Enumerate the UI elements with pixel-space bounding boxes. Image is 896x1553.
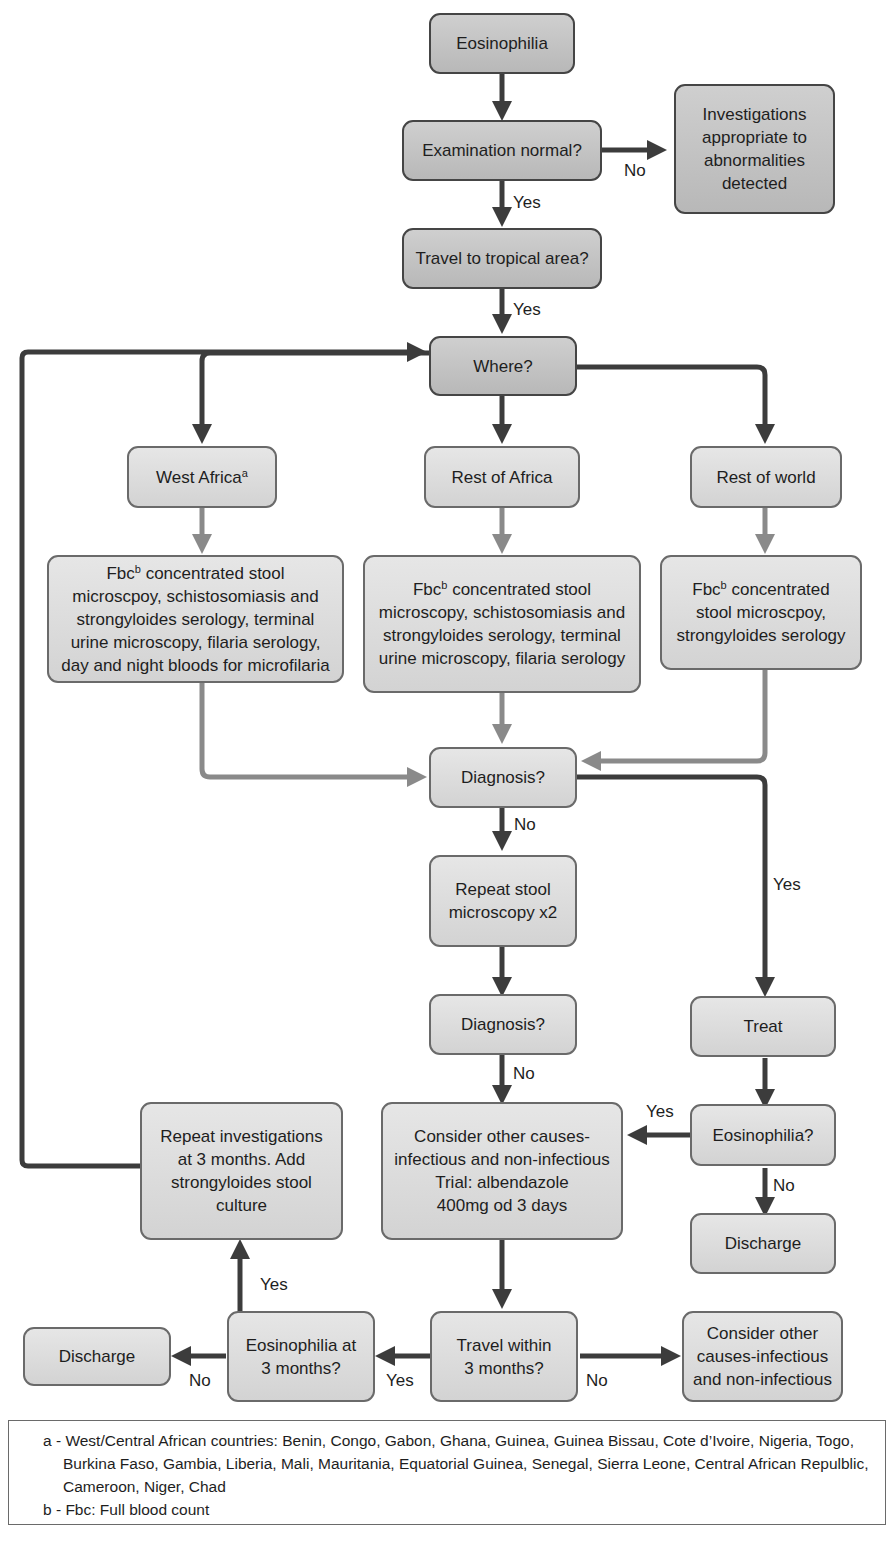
node-diagnosis-1: Diagnosis?	[429, 747, 577, 808]
fbc-label: Fbc	[106, 564, 134, 583]
edge-label-eos-yes: Yes	[646, 1102, 674, 1122]
node-text: Fbcb concentrated stool microscopy, schi…	[379, 578, 625, 670]
tests-text: concentrated stool microscpoy, schistoso…	[61, 564, 329, 675]
node-text: Fbcb concentrated stool microscpoy, schi…	[61, 562, 329, 677]
edge-label-diag1-yes: Yes	[773, 875, 801, 895]
edge-label-eos3m-no: No	[189, 1371, 211, 1391]
node-text: Where?	[473, 355, 533, 378]
edge-label-eos3m-yes: Yes	[260, 1275, 288, 1295]
node-rest-of-world: Rest of world	[690, 446, 842, 508]
node-consider-other-causes: Consider other causes-infectious and non…	[682, 1311, 843, 1402]
edge-label-eos-no: No	[773, 1176, 795, 1196]
node-consider-trial: Consider other causes- infectious and no…	[381, 1102, 623, 1240]
node-text: Eosinophilia at 3 months?	[246, 1334, 357, 1380]
node-tests-west-africa: Fbcb concentrated stool microscpoy, schi…	[47, 555, 344, 683]
node-rest-of-africa: Rest of Africa	[424, 446, 580, 508]
arrow-diag1-yes	[575, 777, 765, 988]
node-where: Where?	[429, 336, 577, 396]
node-text: Discharge	[725, 1232, 802, 1255]
node-text: Diagnosis?	[461, 766, 545, 789]
node-investigations-abnormalities: Investigations appropriate to abnormalit…	[674, 84, 835, 214]
edge-label-travel-yes: Yes	[513, 300, 541, 320]
node-text: Discharge	[59, 1345, 136, 1368]
node-tests-rest-of-africa: Fbcb concentrated stool microscopy, schi…	[363, 555, 641, 693]
node-repeat-stool: Repeat stool microscopy x2	[429, 855, 577, 947]
arrow-where-world	[575, 367, 765, 435]
node-text: Eosinophilia	[456, 32, 548, 55]
west-africa-label: West Africa	[156, 468, 242, 487]
node-text: Investigations appropriate to abnormalit…	[702, 103, 807, 195]
node-text: Eosinophilia?	[712, 1124, 813, 1147]
node-text: Consider other causes-infectious and non…	[693, 1322, 832, 1391]
node-text: Repeat investigations at 3 months. Add s…	[160, 1125, 323, 1217]
node-diagnosis-2: Diagnosis?	[429, 994, 577, 1055]
node-text: Travel within 3 months?	[457, 1334, 552, 1380]
node-discharge-left: Discharge	[23, 1327, 171, 1386]
edge-label-exam-no: No	[624, 161, 646, 181]
arrow-tests-west-to-diag	[202, 681, 418, 777]
node-tests-rest-of-world: Fbcb concentrated stool microscpoy, stro…	[660, 555, 862, 670]
node-text: Repeat stool microscopy x2	[449, 878, 558, 924]
edge-label-exam-yes: Yes	[513, 193, 541, 213]
node-eosinophilia-3-months: Eosinophilia at 3 months?	[227, 1311, 375, 1402]
footnotes-box: a - West/Central African countries: Beni…	[8, 1420, 886, 1525]
edge-label-diag1-no: No	[514, 815, 536, 835]
edge-label-travel-within-yes: Yes	[386, 1371, 414, 1391]
node-travel-within-3-months: Travel within 3 months?	[430, 1311, 578, 1402]
node-text: West Africaa	[156, 466, 248, 489]
fbc-label: Fbc	[692, 580, 720, 599]
node-repeat-investigations: Repeat investigations at 3 months. Add s…	[140, 1102, 343, 1240]
node-text: Travel to tropical area?	[415, 247, 588, 270]
node-text: Rest of Africa	[451, 466, 552, 489]
node-text: Diagnosis?	[461, 1013, 545, 1036]
footnote-a: a - West/Central African countries: Beni…	[43, 1429, 871, 1498]
node-west-africa: West Africaa	[127, 446, 277, 508]
node-text: Fbcb concentrated stool microscpoy, stro…	[676, 578, 845, 647]
arrow-where-west	[202, 353, 430, 435]
node-treat: Treat	[690, 996, 836, 1057]
footnote-b: b - Fbc: Full blood count	[43, 1498, 871, 1521]
node-eosinophilia: Eosinophilia	[429, 13, 575, 74]
node-text: Treat	[743, 1015, 782, 1038]
node-travel-tropical: Travel to tropical area?	[402, 228, 602, 289]
node-discharge-right: Discharge	[690, 1213, 836, 1274]
node-text: Examination normal?	[422, 139, 582, 162]
edge-label-diag2-no: No	[513, 1064, 535, 1084]
node-examination-normal: Examination normal?	[402, 120, 602, 181]
node-text: Consider other causes- infectious and no…	[394, 1125, 609, 1217]
footnote-ref-a: a	[242, 467, 248, 479]
node-text: Rest of world	[716, 466, 815, 489]
edge-label-travel-within-no: No	[586, 1371, 608, 1391]
node-eosinophilia-check: Eosinophilia?	[690, 1104, 836, 1166]
fbc-label: Fbc	[413, 580, 441, 599]
